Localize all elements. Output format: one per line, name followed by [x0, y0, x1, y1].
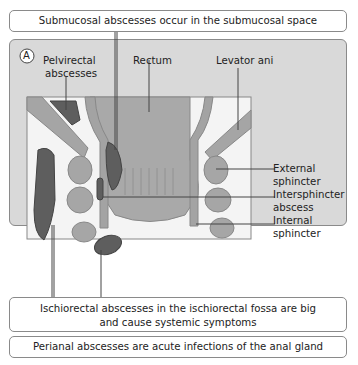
- ischiorectal-text-1: Ischiorectal abscesses in the ischiorect…: [10, 302, 346, 316]
- label-internal-sphincter-1: Internal: [273, 214, 312, 227]
- label-pelvirectal-line2: abscesses: [45, 67, 97, 80]
- panel-marker: A: [23, 49, 30, 62]
- label-external-sphincter-1: External: [273, 162, 315, 175]
- perianal-text: Perianal abscesses are acute infections …: [33, 341, 323, 352]
- label-internal-sphincter-2: sphincter: [273, 227, 321, 240]
- ischiorectal-text-2: and cause systemic symptoms: [10, 316, 346, 330]
- label-intersphincter-1: Intersphincter: [273, 188, 344, 201]
- label-levator-ani: Levator ani: [216, 54, 273, 67]
- label-intersphincter-2: abscess: [273, 201, 314, 214]
- ischiorectal-callout: Ischiorectal abscesses in the ischiorect…: [9, 297, 347, 332]
- perianal-callout: Perianal abscesses are acute infections …: [9, 336, 347, 358]
- label-external-sphincter-2: sphincter: [273, 175, 321, 188]
- label-rectum: Rectum: [133, 54, 172, 67]
- label-pelvirectal-line1: Pelvirectal: [43, 54, 96, 67]
